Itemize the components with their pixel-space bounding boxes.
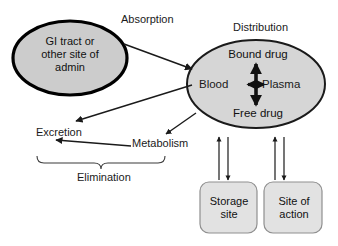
gi-tract-ellipse: [13, 21, 127, 95]
absorption-arrow: [124, 44, 192, 69]
site-of-action-box: [264, 182, 322, 233]
elimination-label: Elimination: [77, 171, 131, 183]
storage-site-box: [200, 182, 257, 233]
diagram-canvas: [0, 0, 338, 246]
metabolism-arrow: [166, 113, 196, 134]
distribution-label: Distribution: [233, 21, 288, 33]
blood-label: Blood: [199, 78, 228, 90]
excretion-label: Excretion: [36, 126, 82, 138]
absorption-label: Absorption: [121, 13, 174, 25]
pharmacokinetics-diagram: GI tract or other site of admin Bound dr…: [0, 0, 338, 246]
metabolism-label: Metabolism: [132, 137, 188, 149]
metabolism-to-excretion-arrow: [56, 140, 131, 146]
elimination-brace: [37, 156, 165, 169]
plasma-label: Plasma: [262, 78, 300, 90]
